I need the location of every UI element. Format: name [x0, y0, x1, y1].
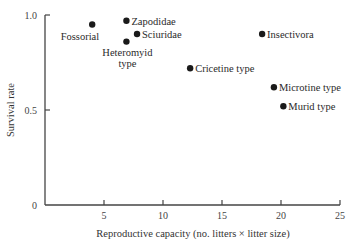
y-axis-title: Survival rate — [5, 83, 16, 137]
data-point-label: Insectivora — [267, 29, 314, 40]
x-tick-label: 10 — [158, 210, 168, 221]
data-point — [271, 84, 277, 90]
y-tick-label: 0.5 — [25, 105, 38, 116]
data-point — [280, 103, 286, 109]
data-point — [123, 18, 129, 24]
x-tick-label: 15 — [217, 210, 227, 221]
data-point — [134, 31, 140, 37]
data-point-label: Cricetine type — [195, 63, 255, 74]
data-point-label: Microtine type — [279, 82, 341, 93]
data-point — [123, 38, 129, 44]
x-axis-title: Reproductive capacity (no. litters × lit… — [96, 228, 290, 240]
data-point-label: Murid type — [288, 101, 335, 112]
data-point-label: Zapodidae — [131, 16, 176, 27]
y-tick-label: 1.0 — [25, 10, 38, 21]
x-tick-label: 20 — [276, 210, 286, 221]
y-tick-label: 0 — [32, 200, 37, 211]
x-tick-label: 25 — [335, 210, 345, 221]
data-point-label: Heteromyidtype — [102, 47, 153, 69]
data-point — [259, 31, 265, 37]
scatter-chart: 51015202500.51.0 FossorialZapodidaeSciur… — [0, 0, 354, 246]
data-point — [89, 21, 95, 27]
data-point — [187, 65, 193, 71]
data-point-label: Sciuridae — [142, 29, 182, 40]
x-tick-label: 5 — [102, 210, 107, 221]
data-point-label: Fossorial — [61, 31, 100, 42]
